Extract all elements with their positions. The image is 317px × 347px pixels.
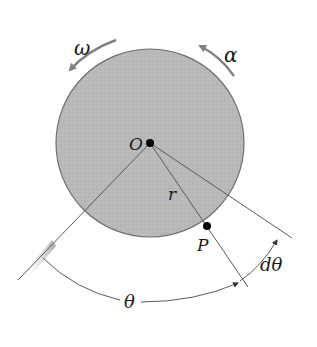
point-p — [203, 222, 211, 230]
omega-label: ω — [74, 36, 90, 60]
rotation-diagram: ω α O r P θ dθ — [0, 0, 317, 347]
radius-label: r — [168, 184, 177, 204]
point-p-label: P — [196, 235, 209, 255]
dtheta-label: dθ — [260, 254, 283, 275]
alpha-label: α — [224, 43, 238, 67]
theta-arc-right — [141, 283, 238, 302]
origin-label: O — [129, 134, 143, 154]
origin-point — [146, 139, 154, 147]
theta-arc — [43, 258, 120, 300]
theta-label: θ — [124, 291, 135, 312]
